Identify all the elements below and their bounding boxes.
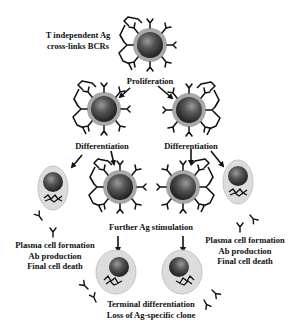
diagram-canvas: T independent Ag cross-links BCRs Prolif…: [0, 0, 302, 332]
b-cell-low-left: [89, 159, 146, 213]
plasma-right-line2: Ab production: [195, 246, 295, 257]
plasma-cell-left: [34, 166, 68, 237]
b-cell-low-right: [157, 159, 214, 213]
further-stimulation-label: Further Ag stimulation: [98, 222, 204, 233]
differentiation-left-label: Differentiation: [62, 141, 142, 152]
plasma-right-line1: Plasma cell formation: [195, 235, 295, 246]
plasma-left-line1: Plasma cell formation: [5, 240, 105, 251]
differentiation-right-label: Differentiation: [151, 141, 231, 152]
plasma-cell-right: [223, 160, 253, 204]
plasma-left-label: Plasma cell formation Ab production Fina…: [5, 240, 105, 272]
b-cell-mid-right: [163, 82, 220, 136]
plasma-right-label: Plasma cell formation Ab production Fina…: [195, 235, 295, 267]
terminal-line1: Terminal differentiation: [95, 299, 207, 310]
terminal-line2: Loss of Ag-specific clone: [95, 310, 207, 321]
terminal-label: Terminal differentiation Loss of Ag-spec…: [95, 299, 207, 320]
b-cell-mid-left: [73, 81, 130, 135]
b-cell-top: [119, 17, 176, 71]
proliferation-arrows: [120, 86, 172, 98]
plasma-left-line2: Ab production: [5, 251, 105, 262]
plasma-left-line3: Final cell death: [5, 261, 105, 272]
plasma-right-line3: Final cell death: [195, 256, 295, 267]
trigger-label-line2: cross-links BCRs: [38, 41, 118, 52]
plasma-right-antibodies: [237, 213, 258, 232]
trigger-label: T independent Ag cross-links BCRs: [38, 30, 118, 51]
further-stimulation-arrows: [118, 236, 183, 251]
trigger-label-line1: T independent Ag: [38, 30, 118, 41]
proliferation-label: Proliferation: [110, 76, 190, 87]
